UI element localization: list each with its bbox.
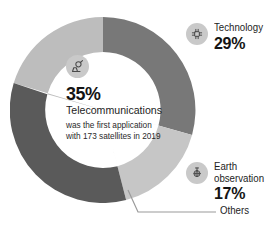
legend-percent-technology: 29%: [214, 35, 263, 53]
chart-canvas: 35% Telecommunications was the first app…: [0, 0, 269, 229]
legend-item-technology[interactable]: Technology 29%: [186, 22, 266, 53]
center-subtext-line-2: with 173 satellites in 2019: [66, 131, 157, 142]
legend-text-earth-observation: Earth observation 17%: [214, 161, 267, 203]
center-callout: 35% Telecommunications was the first app…: [56, 55, 162, 142]
legend-text-technology: Technology 29%: [214, 22, 266, 53]
earth-observation-satellite-icon: [186, 162, 208, 184]
technology-chip-icon: [186, 23, 208, 45]
center-percent: 35%: [66, 84, 156, 103]
legend-label-technology: Technology: [214, 22, 263, 34]
legend-label-earth-observation-line-1: Earth: [214, 161, 264, 173]
satellite-dish-icon: [66, 55, 89, 78]
center-subtext: was the first application with 173 satel…: [56, 120, 162, 142]
legend-label-earth-observation-line-2: observation: [214, 173, 264, 185]
others-leader-line: [120, 186, 218, 218]
legend-percent-earth-observation: 17%: [214, 185, 264, 203]
center-category: Telecommunications: [66, 104, 155, 117]
legend-label-others[interactable]: Others: [220, 205, 249, 216]
center-subtext-line-1: was the first application: [66, 120, 157, 131]
